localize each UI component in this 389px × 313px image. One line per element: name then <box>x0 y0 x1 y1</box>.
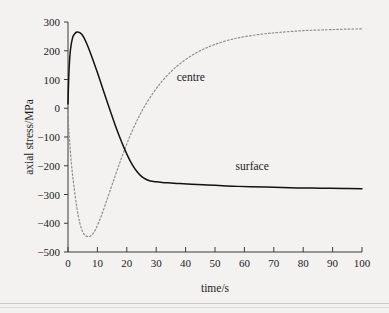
y-tick-label: 300 <box>44 16 61 28</box>
x-tick-label: 0 <box>65 257 71 269</box>
x-tick-label: 20 <box>121 257 133 269</box>
series-line-surface <box>68 32 362 189</box>
x-tick-label: 90 <box>327 257 339 269</box>
x-axis-title: time/s <box>201 282 230 294</box>
axial-stress-vs-time-plot: 3002001000−100−200−300−400−500 010203040… <box>0 0 389 313</box>
y-tick-label: −500 <box>37 246 60 258</box>
page-divider-bottom <box>0 307 389 308</box>
x-tick-label: 60 <box>239 257 251 269</box>
series-line-centre <box>68 29 362 237</box>
y-axis-ticks: 3002001000−100−200−300−400−500 <box>37 16 68 258</box>
x-tick-label: 70 <box>268 257 280 269</box>
x-tick-label: 10 <box>92 257 104 269</box>
y-tick-label: −300 <box>37 189 60 201</box>
y-axis-title: axial stress/MPa <box>23 99 35 175</box>
y-tick-label: 100 <box>44 74 61 86</box>
y-tick-label: 0 <box>55 102 61 114</box>
y-tick-label: −100 <box>37 131 60 143</box>
x-tick-label: 40 <box>180 257 192 269</box>
y-tick-label: −200 <box>37 160 60 172</box>
chart-figure: 3002001000−100−200−300−400−500 010203040… <box>0 0 389 313</box>
x-tick-label: 100 <box>354 257 371 269</box>
y-tick-label: 200 <box>44 45 61 57</box>
series-label-surface: surface <box>236 160 269 172</box>
x-tick-label: 30 <box>151 257 163 269</box>
y-tick-label: −400 <box>37 217 60 229</box>
series-label-centre: centre <box>177 71 205 83</box>
x-tick-label: 80 <box>298 257 310 269</box>
x-axis-ticks: 0102030405060708090100 <box>65 247 371 269</box>
page-divider-top <box>0 303 389 304</box>
x-tick-label: 50 <box>210 257 222 269</box>
